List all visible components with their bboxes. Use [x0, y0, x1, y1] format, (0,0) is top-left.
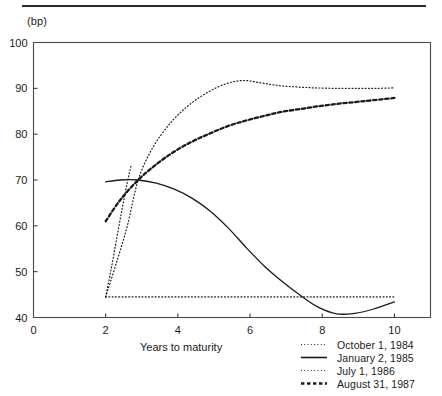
y-tick-label: 70 — [15, 174, 27, 186]
legend-item: October 1, 1984 — [300, 338, 440, 351]
series-line — [106, 81, 395, 297]
x-axis-title: Years to maturity — [140, 341, 222, 353]
y-tick-label: 90 — [15, 82, 27, 94]
legend-label: January 2, 1985 — [328, 352, 414, 364]
legend-label: October 1, 1984 — [328, 339, 414, 351]
x-tick-label: 4 — [175, 324, 181, 336]
plot-frame — [34, 43, 431, 318]
y-tick-label: 60 — [15, 220, 27, 232]
y-tick-label: 50 — [15, 266, 27, 278]
y-tick-label: 100 — [9, 37, 27, 49]
plot-area: 4050607080901000246810 — [0, 0, 442, 396]
x-tick-label: 0 — [30, 324, 36, 336]
x-tick-label: 6 — [247, 324, 253, 336]
x-tick-label: 8 — [319, 324, 325, 336]
axes-group: 4050607080901000246810 — [9, 37, 430, 336]
x-tick-label: 10 — [388, 324, 400, 336]
legend-item: July 1, 1986 — [300, 364, 440, 377]
chart-figure: (bp) 4050607080901000246810 Years to mat… — [0, 0, 442, 396]
y-tick-label: 40 — [15, 312, 27, 324]
legend-item: August 31, 1987 — [300, 377, 440, 390]
legend-swatch-dotted-icon — [300, 365, 328, 376]
legend-swatch-fine-dotted-icon — [300, 339, 328, 350]
series-line — [106, 98, 395, 221]
chart-legend: October 1, 1984January 2, 1985July 1, 19… — [300, 338, 440, 390]
legend-label: August 31, 1987 — [328, 378, 415, 390]
x-tick-label: 2 — [103, 324, 109, 336]
legend-swatch-dashed-icon — [300, 378, 328, 389]
legend-swatch-solid-icon — [300, 352, 328, 363]
y-tick-label: 80 — [15, 128, 27, 140]
series-line — [106, 180, 395, 315]
series-line — [106, 166, 131, 297]
series-group — [106, 81, 395, 315]
legend-item: January 2, 1985 — [300, 351, 440, 364]
legend-label: July 1, 1986 — [328, 365, 395, 377]
